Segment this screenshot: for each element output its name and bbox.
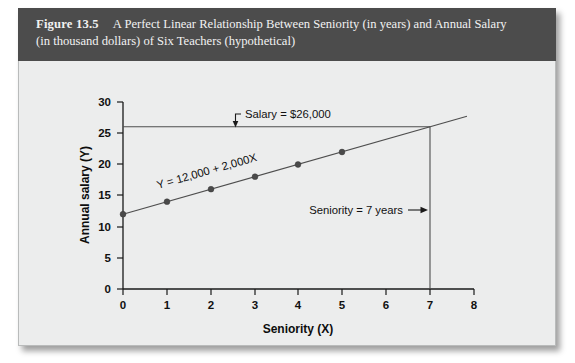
y-tick-label: 0 xyxy=(105,283,111,295)
x-axis-title: Seniority (X) xyxy=(263,322,334,336)
scatter-plot: 30 25 20 15 10 5 0 0 xyxy=(19,61,555,344)
data-point xyxy=(120,211,126,217)
plot-area: 30 25 20 15 10 5 0 0 xyxy=(18,61,556,346)
regression-equation-label: Y = 12,000 + 2,000X xyxy=(155,151,258,191)
figure-card: Figure 13.5A Perfect Linear Relationship… xyxy=(18,8,556,346)
data-point xyxy=(208,186,214,192)
x-tick-label: 8 xyxy=(471,299,478,311)
y-tick-label: 20 xyxy=(98,158,111,170)
y-tick-label: 30 xyxy=(98,96,111,108)
x-tick-label: 2 xyxy=(208,299,214,311)
x-tick-label: 4 xyxy=(295,299,302,311)
data-point xyxy=(252,174,258,180)
y-axis-tick-labels: 30 25 20 15 10 5 0 xyxy=(98,96,111,295)
seniority-annotation-arrow-icon xyxy=(421,207,429,214)
y-tick-label: 5 xyxy=(105,252,112,264)
x-tick-label: 3 xyxy=(252,299,258,311)
data-point xyxy=(339,149,345,155)
y-axis-title: Annual salary (Y) xyxy=(78,146,92,244)
data-point xyxy=(164,199,170,205)
y-axis-title-text: Annual salary (Y) xyxy=(78,146,92,244)
x-tick-label: 5 xyxy=(339,299,346,311)
x-axis-tick-labels: 0 1 2 3 4 5 6 7 8 xyxy=(120,299,478,311)
x-tick-label: 7 xyxy=(427,299,433,311)
x-tick-label: 6 xyxy=(383,299,389,311)
y-tick-label: 25 xyxy=(98,127,111,139)
figure-number: Figure 13.5 xyxy=(36,17,99,31)
figure-caption-line-2: (in thousand dollars) of Six Teachers (h… xyxy=(36,33,538,50)
figure-caption: Figure 13.5A Perfect Linear Relationship… xyxy=(36,16,538,50)
x-tick-label: 1 xyxy=(164,299,171,311)
y-tick-label: 10 xyxy=(98,221,111,233)
y-axis-ticks xyxy=(117,102,123,289)
seniority-annotation: Seniority = 7 years xyxy=(309,204,428,216)
data-point xyxy=(295,162,301,168)
x-axis-title-text: Seniority (X) xyxy=(263,322,334,336)
y-tick-label: 15 xyxy=(98,189,111,201)
seniority-annotation-label: Seniority = 7 years xyxy=(309,204,403,216)
x-tick-label: 0 xyxy=(120,299,126,311)
figure-caption-band: Figure 13.5A Perfect Linear Relationship… xyxy=(18,8,556,61)
salary-annotation: Salary = $26,000 xyxy=(233,108,331,128)
x-axis-ticks xyxy=(123,289,474,295)
salary-annotation-label: Salary = $26,000 xyxy=(245,108,331,120)
figure-caption-line-1: A Perfect Linear Relationship Between Se… xyxy=(113,17,507,31)
